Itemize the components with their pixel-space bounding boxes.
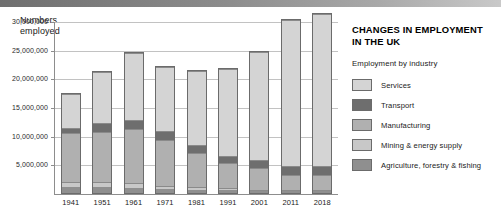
- y-axis-label: 15,000,000: [0, 104, 48, 111]
- bar-segment: [156, 131, 174, 140]
- bar-segment: [125, 188, 143, 193]
- legend-item-label: Manufacturing: [381, 121, 430, 130]
- bar-segment: [219, 69, 237, 156]
- bar-segment: [282, 20, 300, 166]
- legend-item-label: Services: [381, 81, 411, 90]
- bar-segment: [282, 175, 300, 190]
- bar-segment: [93, 132, 111, 183]
- bar-segment: [282, 191, 300, 193]
- x-axis-label: 1991: [211, 198, 245, 207]
- x-axis-line: [54, 194, 338, 195]
- legend-heading: Employment by industry: [352, 59, 501, 68]
- bar-column[interactable]: [249, 51, 269, 194]
- bar-segment: [219, 156, 237, 163]
- y-axis-label: 30,000,000: [0, 18, 48, 25]
- x-axis-label: 1951: [85, 198, 119, 207]
- bar-column[interactable]: [155, 66, 175, 194]
- bar-segment: [125, 120, 143, 129]
- bar-column[interactable]: [312, 13, 332, 194]
- y-axis-tick: [51, 108, 55, 109]
- x-axis-label: 2018: [305, 198, 339, 207]
- legend-swatch-icon: [352, 119, 372, 131]
- legend-swatch-icon: [352, 79, 372, 91]
- bar-segment: [156, 140, 174, 185]
- bar-segment: [313, 191, 331, 193]
- legend-item[interactable]: Manufacturing: [352, 115, 501, 135]
- bar-segment: [188, 190, 206, 193]
- legend-item[interactable]: Agriculture, forestry & fishing: [352, 155, 501, 175]
- bar-segment: [313, 175, 331, 190]
- bar-segment: [188, 71, 206, 145]
- bar-column[interactable]: [124, 52, 144, 194]
- header-decor-bar: [0, 0, 501, 7]
- bar-segment: [250, 191, 268, 193]
- bar-segment: [62, 133, 80, 181]
- bar-segment: [62, 94, 80, 128]
- legend-item-label: Transport: [381, 101, 414, 110]
- x-axis-label: 2001: [242, 198, 276, 207]
- y-axis-label: 20,000,000: [0, 75, 48, 82]
- bar-segment: [250, 168, 268, 189]
- y-axis-label: 5,000,000: [0, 161, 48, 168]
- bar-segment: [188, 145, 206, 153]
- x-axis-label: 1981: [180, 198, 214, 207]
- x-axis-label: 2011: [274, 198, 308, 207]
- chart-screenshot: Numbers employed 5,000,00010,000,00015,0…: [0, 0, 501, 222]
- x-axis-label: 1961: [117, 198, 151, 207]
- y-axis-tick: [51, 137, 55, 138]
- bar-segment: [188, 153, 206, 187]
- legend-item[interactable]: Services: [352, 75, 501, 95]
- plot-area: 5,000,00010,000,00015,000,00020,000,0002…: [0, 7, 340, 222]
- legend-item[interactable]: Mining & energy supply: [352, 135, 501, 155]
- bar-column[interactable]: [281, 19, 301, 194]
- legend-swatch-icon: [352, 139, 372, 151]
- chart-legend: ServicesTransportManufacturingMining & e…: [352, 75, 501, 175]
- y-axis-tick: [51, 79, 55, 80]
- bar-segment: [313, 166, 331, 175]
- bar-segment: [156, 189, 174, 193]
- chart-panel: Numbers employed 5,000,00010,000,00015,0…: [0, 7, 340, 222]
- bar-segment: [250, 52, 268, 161]
- x-axis-label: 1941: [54, 198, 88, 207]
- bar-segment: [219, 190, 237, 193]
- y-axis-tick: [51, 165, 55, 166]
- bar-segment: [156, 67, 174, 132]
- y-axis-label: 10,000,000: [0, 133, 48, 140]
- legend-swatch-icon: [352, 99, 372, 111]
- legend-item-label: Mining & energy supply: [381, 141, 462, 150]
- y-axis-tick: [51, 51, 55, 52]
- page-title: CHANGES IN EMPLOYMENT IN THE UK: [352, 24, 501, 47]
- legend-swatch-icon: [352, 159, 372, 171]
- bar-column[interactable]: [61, 93, 81, 194]
- legend-item-label: Agriculture, forestry & fishing: [381, 161, 481, 170]
- y-axis-tick: [51, 22, 55, 23]
- bar-segment: [313, 14, 331, 165]
- y-axis-label: 25,000,000: [0, 47, 48, 54]
- bar-column[interactable]: [187, 70, 207, 194]
- legend-item[interactable]: Transport: [352, 95, 501, 115]
- bar-segment: [93, 72, 111, 123]
- bar-column[interactable]: [92, 71, 112, 194]
- bar-segment: [125, 129, 143, 184]
- bar-segment: [93, 187, 111, 193]
- bar-segment: [125, 53, 143, 120]
- x-axis-label: 1971: [148, 198, 182, 207]
- bar-segment: [62, 187, 80, 193]
- info-panel: CHANGES IN EMPLOYMENT IN THE UK Employme…: [352, 7, 501, 222]
- bar-column[interactable]: [218, 68, 238, 194]
- bar-segment: [93, 123, 111, 131]
- bar-segment: [219, 163, 237, 188]
- bar-segment: [250, 160, 268, 168]
- bar-segment: [282, 166, 300, 175]
